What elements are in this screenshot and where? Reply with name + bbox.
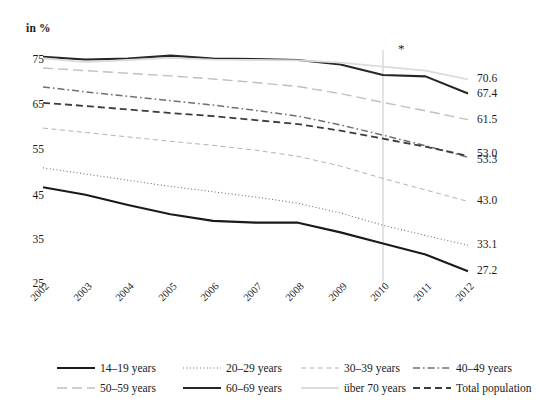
end-label-61.5: 61.5 bbox=[477, 114, 497, 125]
legend-label: 60–69 years bbox=[226, 382, 282, 394]
series-line-total-population bbox=[43, 103, 468, 156]
legend-swatch-solid-thick-dark-icon bbox=[56, 363, 96, 373]
legend-swatch-dashed-light-icon bbox=[300, 363, 340, 373]
legend-item-60-69-years[interactable]: 60–69 years bbox=[182, 382, 300, 394]
chart-container: in % 75 65 55 45 35 25 * 200220032004200… bbox=[0, 0, 539, 414]
legend-item-ueber-70-years[interactable]: über 70 years bbox=[300, 382, 412, 394]
series-line-40-49-years bbox=[43, 87, 468, 157]
end-label-53.3: 53.3 bbox=[477, 154, 497, 165]
end-label-43.0: 43.0 bbox=[477, 195, 497, 206]
legend-item-20-29-years[interactable]: 20–29 years bbox=[182, 362, 300, 374]
legend-row-2: 50–59 years 60–69 years über 70 years To… bbox=[56, 378, 516, 398]
legend-label: Total population bbox=[456, 382, 532, 394]
legend-label: 30–39 years bbox=[344, 362, 400, 374]
series-group bbox=[43, 56, 468, 272]
legend-swatch-dotted-icon bbox=[182, 363, 222, 373]
series-line-20-29-years bbox=[43, 168, 468, 245]
end-label-33.1: 33.1 bbox=[477, 239, 497, 250]
end-label-27.2: 27.2 bbox=[477, 265, 497, 276]
legend-label: 14–19 years bbox=[100, 362, 156, 374]
plot-area bbox=[0, 0, 539, 414]
legend-label: 40–49 years bbox=[456, 362, 512, 374]
legend-swatch-long-dash-light-icon bbox=[56, 383, 96, 393]
legend-item-40-49-years[interactable]: 40–49 years bbox=[412, 362, 516, 374]
legend-label: über 70 years bbox=[344, 382, 406, 394]
legend-label: 50–59 years bbox=[100, 382, 156, 394]
legend-swatch-solid-very-light-icon bbox=[300, 383, 340, 393]
legend-item-50-59-years[interactable]: 50–59 years bbox=[56, 382, 182, 394]
end-label-67.4: 67.4 bbox=[477, 88, 497, 99]
legend-label: 20–29 years bbox=[226, 362, 282, 374]
legend-swatch-solid-thick-dark-icon bbox=[182, 383, 222, 393]
legend-row-1: 14–19 years 20–29 years 30–39 years 40–4… bbox=[56, 358, 516, 378]
legend-item-14-19-years[interactable]: 14–19 years bbox=[56, 362, 182, 374]
series-line-30-39-years bbox=[43, 128, 468, 201]
series-line-14-19-years bbox=[43, 187, 468, 271]
chart-legend: 14–19 years 20–29 years 30–39 years 40–4… bbox=[56, 358, 516, 398]
end-label-70.6: 70.6 bbox=[477, 73, 497, 84]
legend-item-total-population[interactable]: Total population bbox=[412, 382, 516, 394]
legend-swatch-dash-dot-icon bbox=[412, 363, 452, 373]
legend-item-30-39-years[interactable]: 30–39 years bbox=[300, 362, 412, 374]
legend-swatch-dashed-dark-icon bbox=[412, 383, 452, 393]
